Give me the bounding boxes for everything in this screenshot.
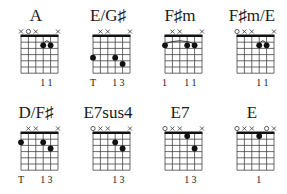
chord-diagram: F♯m111 — [144, 0, 216, 97]
fretboard-grid — [72, 97, 144, 194]
finger-dot — [90, 55, 96, 61]
fretboard-grid — [216, 0, 287, 97]
finger-number: 3 — [120, 77, 125, 88]
finger-number: 1 — [192, 77, 197, 88]
finger-dot — [120, 61, 126, 67]
finger-dot — [192, 146, 198, 152]
finger-number: 1 — [256, 174, 261, 185]
nut — [237, 132, 275, 135]
finger-dot — [40, 42, 46, 48]
finger-dot — [120, 146, 126, 152]
open-string-icon — [91, 126, 95, 130]
finger-number: 1 — [40, 174, 45, 185]
finger-number: 1 — [184, 77, 189, 88]
finger-number: 1 — [184, 174, 189, 185]
open-string-icon — [26, 29, 30, 33]
finger-dot — [48, 146, 54, 152]
finger-number: 1 — [162, 77, 167, 88]
finger-dot — [112, 55, 118, 61]
chord-diagram: A11 — [0, 0, 72, 97]
fretboard-grid — [0, 97, 72, 194]
nut — [237, 35, 275, 38]
finger-number: 1 — [112, 77, 117, 88]
chord-diagram: E713 — [144, 97, 216, 194]
finger-number: T — [90, 77, 96, 88]
finger-number: 1 — [256, 77, 261, 88]
chord-diagram: F♯m/E11 — [216, 0, 287, 97]
fretboard-grid — [0, 0, 72, 97]
finger-dot — [18, 139, 24, 145]
finger-dot — [162, 42, 168, 48]
nut — [93, 132, 131, 135]
chord-diagram: D/F♯T13 — [0, 97, 72, 194]
finger-number: 3 — [48, 174, 53, 185]
nut — [21, 35, 59, 38]
fretboard-grid — [144, 0, 216, 97]
open-string-icon — [265, 126, 269, 130]
nut — [165, 35, 203, 38]
chord-diagram: E7sus413 — [72, 97, 144, 194]
fretboard-grid — [216, 97, 287, 194]
finger-dot — [184, 42, 190, 48]
finger-number: T — [18, 174, 24, 185]
finger-dot — [256, 133, 262, 139]
fretboard-grid — [72, 0, 144, 97]
open-string-icon — [163, 126, 167, 130]
finger-dot — [264, 42, 270, 48]
finger-dot — [48, 42, 54, 48]
finger-dot — [184, 133, 190, 139]
finger-number: 1 — [264, 77, 269, 88]
nut — [21, 132, 59, 135]
finger-dot — [112, 139, 118, 145]
open-string-icon — [235, 126, 239, 130]
finger-number: 3 — [192, 174, 197, 185]
nut — [93, 35, 131, 38]
finger-number: 3 — [120, 174, 125, 185]
finger-dot — [192, 42, 198, 48]
chord-diagram: E1 — [216, 97, 287, 194]
fretboard-grid — [144, 97, 216, 194]
nut — [165, 132, 203, 135]
finger-number: 1 — [40, 77, 45, 88]
finger-number: 1 — [112, 174, 117, 185]
chord-diagram: E/G♯T13 — [72, 0, 144, 97]
finger-number: 1 — [48, 77, 53, 88]
open-string-icon — [235, 29, 239, 33]
finger-dot — [256, 42, 262, 48]
finger-dot — [40, 139, 46, 145]
